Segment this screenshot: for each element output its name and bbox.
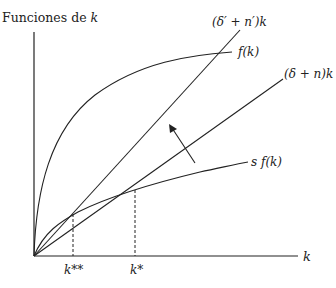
x-axis-label: k: [303, 249, 311, 264]
y-axis-label: Funciones de k: [2, 10, 98, 25]
label-line-new: (δ′ + n′)k: [212, 15, 267, 29]
shift-arrow: [172, 128, 195, 163]
label-line-old: (δ + n)k: [284, 67, 333, 81]
line-old-depreciation: [34, 79, 283, 256]
arrow-head-icon: [169, 124, 177, 133]
steady-state-diagram: Funciones de k k (δ′ + n′)k f(k) (δ + n)…: [0, 0, 336, 288]
sf-curve: [34, 162, 248, 256]
label-sf: s f(k): [251, 155, 282, 169]
tick-k-star: k*: [130, 263, 143, 277]
label-f: f(k): [237, 45, 259, 59]
tick-k-double-star: k**: [64, 263, 83, 277]
line-new-depreciation: [34, 30, 240, 256]
f-curve: [34, 52, 232, 256]
